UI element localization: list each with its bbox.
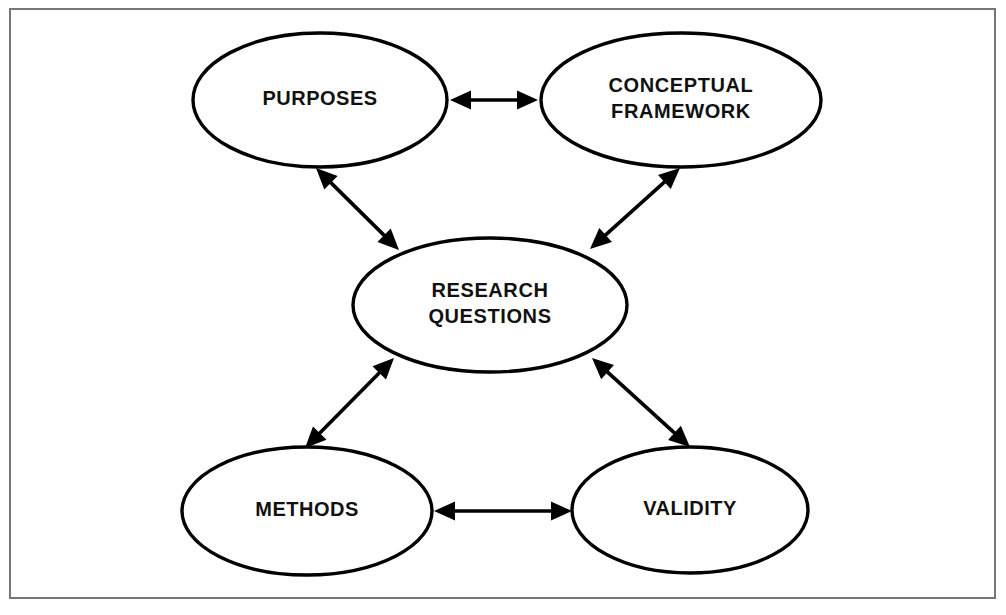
node-label-line: FRAMEWORK — [611, 100, 751, 122]
connector-methods-research-questions — [305, 358, 394, 448]
arrow-head-icon — [450, 91, 471, 110]
node-label-validity: VALIDITY — [643, 497, 737, 519]
node-validity[interactable]: VALIDITY — [572, 447, 808, 573]
arrow-head-icon — [517, 91, 538, 110]
connector-validity-research-questions — [592, 358, 690, 447]
node-conceptual-framework[interactable]: CONCEPTUALFRAMEWORK — [541, 33, 821, 167]
connector-shaft — [327, 179, 388, 240]
node-label-line: RESEARCH — [431, 279, 548, 301]
nodes-layer: PURPOSESCONCEPTUALFRAMEWORKRESEARCHQUEST… — [182, 33, 821, 575]
node-label-methods: METHODS — [255, 498, 359, 520]
diagram-canvas: PURPOSESCONCEPTUALFRAMEWORKRESEARCHQUEST… — [0, 0, 1006, 615]
node-methods[interactable]: METHODS — [182, 447, 432, 575]
connector-shaft — [601, 178, 669, 239]
node-purposes[interactable]: PURPOSES — [193, 33, 447, 167]
arrow-head-icon — [434, 502, 455, 521]
node-label-line: QUESTIONS — [428, 305, 551, 327]
node-label-line: METHODS — [255, 498, 359, 520]
node-label-line: VALIDITY — [643, 497, 737, 519]
connector-conceptual-framework-research-questions — [590, 168, 680, 249]
node-label-purposes: PURPOSES — [262, 87, 377, 109]
connector-purposes-conceptual-framework — [450, 91, 538, 110]
connector-methods-validity — [434, 502, 572, 521]
node-label-line: PURPOSES — [262, 87, 377, 109]
arrow-head-icon — [551, 502, 572, 521]
node-label-line: CONCEPTUAL — [609, 74, 754, 96]
research-design-diagram: PURPOSESCONCEPTUALFRAMEWORKRESEARCHQUEST… — [0, 0, 1006, 615]
node-research-questions[interactable]: RESEARCHQUESTIONS — [353, 238, 627, 372]
connector-shaft — [603, 368, 679, 437]
connector-purposes-research-questions — [316, 168, 399, 250]
connector-shaft — [316, 369, 384, 437]
